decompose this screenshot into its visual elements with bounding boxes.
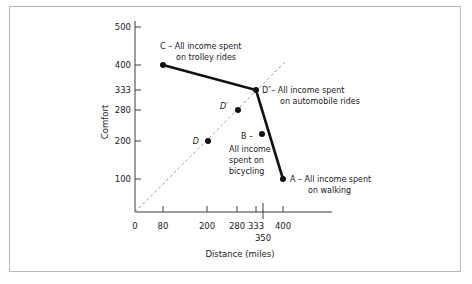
annotation-A: A – All income spent on walking [290,175,371,195]
x-axis-title: Distance (miles) [205,249,274,259]
annotation-B-line4: bicycling [229,167,264,176]
annotation-C-line1: C – All income spent [160,42,241,51]
annotation-Dpp-line2: on automobile rides [280,97,360,106]
chart-canvas: 500 400 333 280 200 100 Comfort 0 80 200… [0,0,472,284]
y-tick-label-400: 400 [115,60,131,70]
data-point-Dpp[interactable] [253,87,259,93]
annotation-B-line2: All income [229,145,271,154]
y-tick-label-100: 100 [115,174,131,184]
y-tick-label-500: 500 [115,22,131,32]
annotation-C: C – All income spent on trolley rides [160,42,241,62]
x-tick-label-350: 350 [255,233,271,243]
data-point-Dp[interactable] [235,107,241,113]
x-tick-marks [163,203,283,219]
point-label-D: D [193,137,199,146]
point-label-Dp: D′ [220,102,228,111]
y-tick-label-333: 333 [115,85,131,95]
comfort-vs-distance-chart: 500 400 333 280 200 100 Comfort 0 80 200… [0,0,472,284]
y-tick-labels: 500 400 333 280 200 100 [115,22,131,184]
annotation-C-line2: on trolley rides [176,53,236,62]
data-point-A[interactable] [280,176,286,182]
x-tick-label-333: 333 [248,221,264,231]
annotation-B: B – All income spent on bicycling [229,132,271,176]
x-tick-label-0: 0 [132,221,137,231]
annotation-B-line3: spent on [229,156,264,165]
x-tick-label-400: 400 [275,221,291,231]
x-tick-label-200: 200 [199,221,215,231]
data-point-D[interactable] [205,138,211,144]
x-tick-label-280: 280 [229,221,245,231]
y-axis-title: Comfort [100,104,110,139]
data-point-C[interactable] [160,62,166,68]
y-tick-label-280: 280 [115,105,131,115]
annotation-Dpp: D″– All income spent on automobile rides [262,86,360,106]
x-tick-labels: 0 80 200 280 333 400 350 [132,221,291,243]
annotation-A-line1: A – All income spent [290,175,371,184]
annotation-Dpp-line1: D″– All income spent [262,86,344,95]
y-tick-marks [135,27,141,179]
y-tick-label-200: 200 [115,136,131,146]
annotation-A-line2: on walking [308,186,351,195]
reference-line-45deg [135,62,285,212]
annotation-B-line1: B – [241,132,253,141]
x-tick-label-80: 80 [158,221,169,231]
data-point-B[interactable] [259,131,265,137]
